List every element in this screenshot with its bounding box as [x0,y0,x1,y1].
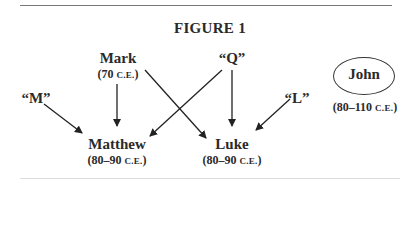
bottom-rule [20,178,400,179]
john-date: (80–110 C.E.) [322,100,408,115]
node-luke: Luke (80–90 C.E.) [192,136,272,168]
edge-m-matthew [44,104,82,133]
node-matthew: Matthew (80–90 C.E.) [72,136,162,168]
node-q: “Q” [212,50,252,67]
node-l: “L” [277,90,317,107]
edge-mark-luke [145,70,206,138]
node-m: “M” [16,90,56,107]
node-john: John [333,66,395,83]
node-mark: Mark (70 C.E.) [88,50,148,82]
edge-q-matthew [150,70,222,136]
